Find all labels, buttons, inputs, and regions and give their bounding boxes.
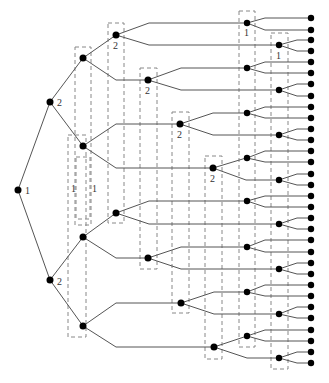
node-label: 2 (177, 129, 182, 140)
leaf-edge (247, 285, 311, 292)
leaf-edge (279, 45, 311, 51)
leaf-node (308, 126, 314, 132)
leaf-node (308, 104, 314, 110)
leaf-node (308, 304, 314, 310)
leaf-edge (279, 84, 311, 90)
tree-node (80, 323, 87, 330)
tree-node (244, 155, 250, 161)
dashed-box (205, 156, 222, 359)
tree-edge (83, 146, 213, 168)
leaf-edge (279, 358, 311, 363)
tree-edge (148, 68, 247, 80)
leaf-edge (279, 218, 311, 224)
leaf-node (308, 93, 314, 99)
tree-node (113, 210, 120, 217)
leaf-edge (279, 90, 311, 96)
tree-edge (214, 336, 247, 347)
leaf-edge (247, 18, 311, 23)
tree-node (244, 198, 250, 204)
tree-edge (18, 102, 50, 190)
tree-node (244, 20, 250, 26)
leaf-edge (279, 263, 311, 269)
tree-node (15, 187, 22, 194)
leaf-node (308, 360, 314, 366)
leaf-edge (247, 196, 311, 201)
leaf-node (308, 349, 314, 355)
dashed-group-boxes (68, 11, 288, 369)
leaf-edge (279, 180, 311, 185)
leaf-edge (247, 68, 311, 73)
tree-edge (18, 190, 50, 280)
tree-node (177, 121, 184, 128)
leaf-edge (279, 40, 311, 45)
leaf-node (308, 182, 314, 188)
tree-edge (50, 58, 83, 102)
node-label: 1 (276, 50, 281, 61)
leaf-edge (279, 314, 311, 318)
leaf-node (308, 260, 314, 266)
leaf-node (308, 327, 314, 333)
leaf-edge (279, 269, 311, 274)
leaf-edge (247, 113, 311, 118)
leaf-edge (279, 352, 311, 358)
tree-edge (83, 237, 148, 258)
leaf-node (308, 226, 314, 232)
dashed-box (76, 157, 90, 219)
tree-node (244, 244, 250, 250)
tree-node (211, 344, 218, 351)
tree-node (244, 333, 250, 339)
tree-node (276, 221, 282, 227)
dashed-box (75, 47, 91, 225)
tree-node (276, 132, 282, 138)
tree-node (80, 143, 87, 150)
tree-node (276, 42, 282, 48)
leaf-node (308, 159, 314, 165)
tree-node (276, 177, 282, 183)
leaf-edge (247, 240, 311, 247)
tree-edge (83, 124, 180, 146)
leaf-edge (247, 336, 311, 341)
tree-edge (50, 280, 83, 326)
tree-edge (180, 113, 247, 124)
dashed-box (172, 112, 189, 313)
leaf-edge (247, 23, 311, 30)
leaf-node (308, 282, 314, 288)
leaf-edge (247, 107, 311, 113)
tree-node (80, 234, 87, 241)
leaf-node (308, 48, 314, 54)
tree-node (47, 277, 54, 284)
leaf-node (308, 59, 314, 65)
node-label: 1 (92, 183, 97, 194)
tree-node (276, 311, 282, 317)
leaf-edge (247, 62, 311, 68)
tree-edge (83, 58, 148, 80)
tree-node (113, 32, 120, 39)
tree-edge (83, 303, 181, 326)
tree-edge (116, 201, 247, 213)
node-label: 2 (145, 85, 150, 96)
leaf-node (308, 338, 314, 344)
leaf-node (308, 215, 314, 221)
leaf-node (308, 81, 314, 87)
tree-nodes (15, 15, 315, 366)
leaf-node (308, 15, 314, 21)
dashed-box (108, 23, 124, 223)
node-label: 2 (57, 97, 62, 108)
leaf-edge (247, 247, 311, 252)
leaf-node (308, 37, 314, 43)
tree-node (145, 255, 152, 262)
leaf-node (308, 293, 314, 299)
leaf-edge (279, 135, 311, 140)
leaf-node (308, 315, 314, 321)
leaf-edge (247, 330, 311, 336)
tree-edge (148, 80, 279, 90)
leaf-edge (279, 129, 311, 135)
tree-diagram: 12222221111 (0, 0, 329, 383)
leaf-node (308, 237, 314, 243)
leaf-node (308, 115, 314, 121)
tree-node (244, 289, 250, 295)
tree-edge (213, 158, 247, 168)
dashed-box (271, 33, 288, 369)
tree-node (145, 77, 152, 84)
tree-edge (181, 292, 247, 303)
